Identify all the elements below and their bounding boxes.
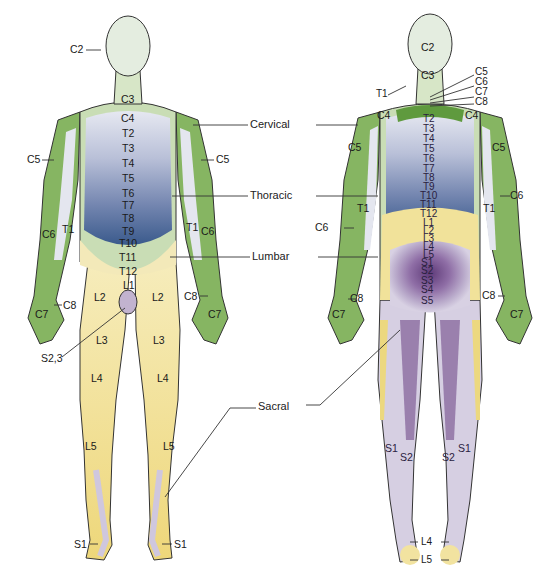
ant-label-t12: T12 [119,266,137,277]
post-label-t1-left: T1 [357,203,369,214]
region-label-thoracic: Thoracic [250,190,292,201]
region-label-cervical: Cervical [250,119,290,130]
ant-label-l2-left: L2 [94,292,106,303]
ant-label-t1-right: T1 [186,222,198,233]
ant-label-t7: T7 [122,200,134,211]
ant-label-t6: T6 [122,188,134,199]
ant-label-l3-left: L3 [96,335,108,346]
dermatome-diagram [0,0,555,580]
anterior-head [106,16,150,76]
post-label-c6-right: C6 [510,190,523,201]
post-label-s1-left: S1 [385,443,398,454]
post-label-c8-top: C8 [475,97,488,107]
region-label-sacral: Sacral [258,401,289,412]
post-label-l4-foot: L4 [421,537,432,547]
ant-label-s1-right: S1 [174,539,187,550]
ant-label-c6-left: C6 [42,229,55,240]
ant-label-l5-right: L5 [163,441,175,452]
post-label-s5: S5 [421,296,433,306]
ant-label-c6-right: C6 [201,226,214,237]
ant-label-t5: T5 [122,173,134,184]
post-label-c6-left: C6 [315,222,328,233]
post-label-c8-right: C8 [482,290,495,301]
post-label-c5-left: C5 [348,142,361,153]
ant-label-s2-3: S2,3 [41,353,63,364]
post-label-c2: C2 [421,42,434,53]
post-label-s2-left: S2 [400,452,413,463]
ant-label-l2-right: L2 [152,292,164,303]
post-label-t1-top: T1 [376,89,388,99]
ant-label-l4-right: L4 [157,373,169,384]
ant-label-l3-right: L3 [153,335,165,346]
ant-label-t1-left: T1 [62,224,74,235]
ant-label-l1: L1 [123,280,135,291]
post-label-c5-right: C5 [492,142,505,153]
ant-label-l4-left: L4 [91,373,103,384]
ant-label-c8-right: C8 [184,291,197,302]
ant-label-c5-right: C5 [216,154,229,165]
region-label-lumbar: Lumbar [252,251,289,262]
post-label-s4: S4 [421,285,433,295]
ant-label-t4: T4 [122,158,134,169]
post-label-l5-foot: L5 [421,555,432,565]
post-label-c3: C3 [421,70,434,81]
post-label-c7-left: C7 [332,309,345,320]
ant-label-c3: C3 [121,94,134,105]
ant-label-t10: T10 [119,238,137,249]
ant-label-c5-left: C5 [27,154,40,165]
ant-label-c8-left: C8 [63,300,76,311]
ant-label-c7-right: C7 [208,309,221,320]
ant-label-l5-left: L5 [85,441,97,452]
ant-label-c4: C4 [121,113,134,124]
post-label-t1-right: T1 [483,203,495,214]
post-label-c4-left: C4 [377,110,390,121]
post-label-c4-right: C4 [465,110,478,121]
ant-label-t3: T3 [122,143,134,154]
ant-label-t8: T8 [122,213,134,224]
ant-label-s1-left: S1 [74,539,87,550]
post-label-c7-right: C7 [510,309,523,320]
ant-label-t2: T2 [122,128,134,139]
ant-label-c7-left: C7 [35,309,48,320]
post-label-s2-right: S2 [442,452,455,463]
ant-label-t11: T11 [119,252,136,263]
ant-label-c2: C2 [70,44,83,55]
post-label-s1-right: S1 [458,443,471,454]
post-label-c8-left: C8 [350,293,363,304]
ant-label-t9: T9 [122,226,134,237]
